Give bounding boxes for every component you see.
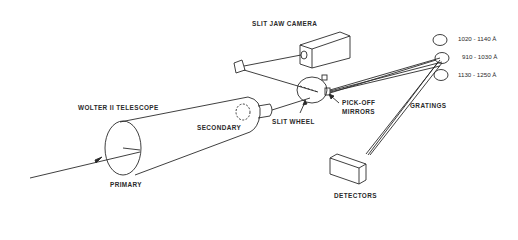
grating-2 — [435, 53, 449, 64]
wavelength-band-1: 1020 - 1140 Å — [458, 36, 496, 42]
primary-label: PRIMARY — [110, 182, 142, 188]
secondary-label: SECONDARY — [197, 125, 241, 131]
slit-wheel-label: SLIT WHEEL — [272, 119, 315, 125]
slit-jaw-camera — [300, 32, 350, 68]
telescope-bottom-edge — [135, 132, 250, 175]
incoming-light-ray — [30, 152, 140, 178]
pick-off-mirrors-label-2: MIRRORS — [342, 109, 375, 115]
wavelength-band-3: 1130 - 1250 Å — [458, 72, 496, 78]
gratings-label: GRATINGS — [410, 103, 446, 109]
fold-mirror — [234, 60, 245, 73]
wavelength-band-2: 910 - 1030 Å — [462, 54, 497, 60]
detector-box — [330, 154, 366, 184]
wolter-telescope-label: WOLTER II TELESCOPE — [78, 105, 159, 111]
pick-off-mirrors-label-1: PICK-OFF — [342, 100, 375, 106]
slit-jaw-camera-label: SLIT JAW CAMERA — [252, 21, 317, 27]
secondary-mirror — [236, 104, 250, 120]
telescope-end-cap — [248, 97, 260, 132]
grating-1 — [433, 35, 447, 46]
detectors-label: DETECTORS — [334, 193, 377, 199]
